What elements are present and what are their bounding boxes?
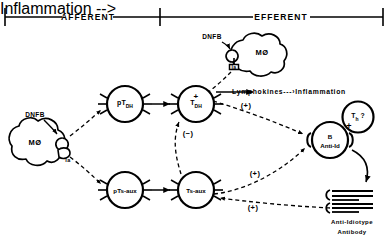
arrow-dnfb-to-macrophage-top xyxy=(222,42,230,49)
antibody-symbol-upper xyxy=(326,190,373,200)
diagram-canvas: Inflammation is text glyph --> xyxy=(0,0,389,240)
diagram-vector-layer: Inflammation is text glyph --> xyxy=(0,0,389,240)
header-label-efferent: EFFERENT xyxy=(254,12,308,22)
tsaux-cell-label: Ts-aux xyxy=(186,187,205,194)
ptsaux-cell-label: pTs-aux xyxy=(113,187,136,194)
antibody-symbol-lower xyxy=(326,203,373,213)
banti-cell-label-line1: B xyxy=(328,133,332,140)
antibody-caption-line2: Antibody xyxy=(337,229,366,235)
macrophage-left-ia-marker-label: Ia xyxy=(65,157,70,163)
arrow-antibody-to-tsaux xyxy=(220,198,330,208)
lymphokines-to-inflammation-dashes: --- xyxy=(283,88,292,95)
dnfb-label-left: DNFB xyxy=(25,111,45,118)
banti-cell-label-line2: Anti-Id xyxy=(320,142,340,149)
antibody-caption-line1: Anti-Idiotype xyxy=(331,219,373,225)
sign-minus-tsaux-to-tdh: (−) xyxy=(183,129,194,138)
ptdh-cell-label: pTDH xyxy=(117,99,133,108)
arrow-tsaux-to-tdh-suppression xyxy=(175,122,181,174)
ptdh-label-sub: DH xyxy=(126,103,133,109)
sign-plus-th-to-banti: + xyxy=(346,121,352,131)
ptdh-label-main: pT xyxy=(117,99,126,106)
tdh-cell-label: TDH xyxy=(190,99,202,108)
lymphokines-label: Lymphokines xyxy=(232,88,283,95)
arrow-macrophage-left-to-ptdh xyxy=(70,110,101,136)
sign-plus-antibody-to-tsaux: (+) xyxy=(248,203,259,212)
th-label-query: ? xyxy=(359,112,365,119)
arrow-banti-secretes-antibody xyxy=(352,150,367,182)
th-cell-label: Th ? xyxy=(351,112,364,121)
macrophage-top-ia-marker-label: Ia xyxy=(232,64,237,70)
header-label-afferent: AFFERENT xyxy=(61,12,115,22)
sign-plus-lymphokine: + xyxy=(193,92,198,101)
macrophage-left-label: MØ xyxy=(29,138,42,147)
lymphokines-inflammation-line: Lymphokines---›Inflammation xyxy=(232,88,346,95)
dnfb-label-top: DNFB xyxy=(202,33,222,40)
tdh-label-sub: DH xyxy=(195,103,202,109)
inflammation-label: Inflammation xyxy=(295,88,346,95)
arrow-macrophage-left-to-ptsaux xyxy=(70,157,101,184)
macrophage-top-label: MØ xyxy=(256,48,269,57)
arrow-tdh-to-banti xyxy=(213,101,303,134)
sign-plus-tsaux-to-banti: (+) xyxy=(250,169,261,178)
sign-plus-tdh-to-banti: (+) xyxy=(241,101,252,110)
